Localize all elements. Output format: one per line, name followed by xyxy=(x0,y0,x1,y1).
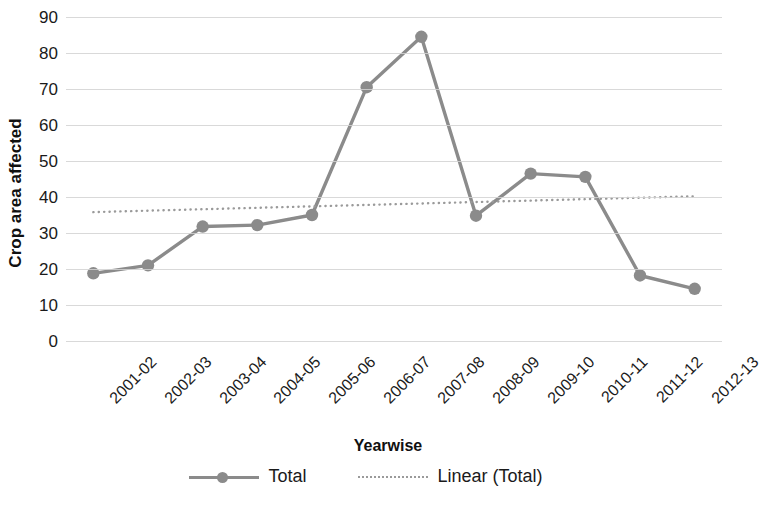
x-axis-tick-label: 2001-02 xyxy=(107,353,161,407)
x-axis-tick-label: 2002-03 xyxy=(161,353,215,407)
y-axis-tick-label: 20 xyxy=(14,261,58,278)
legend-label: Total xyxy=(268,466,306,487)
y-axis-tick-label: 50 xyxy=(14,153,58,170)
gridlines xyxy=(66,17,722,341)
x-axis-tick-label: 2007-08 xyxy=(435,353,489,407)
y-axis-tick-label: 70 xyxy=(14,81,58,98)
y-axis-tick-label: 30 xyxy=(14,225,58,242)
gridline xyxy=(66,17,722,18)
y-axis-tick-label: 40 xyxy=(14,189,58,206)
gridline xyxy=(66,233,722,234)
x-axis-tick-label: 2010-11 xyxy=(598,353,651,406)
legend-label: Linear (Total) xyxy=(437,466,542,487)
y-axis-tick-label: 90 xyxy=(14,9,58,26)
legend-swatch-line-marker-icon xyxy=(189,470,259,484)
gridline xyxy=(66,161,722,162)
legend-item[interactable]: Linear (Total) xyxy=(358,466,542,487)
gridline xyxy=(66,197,722,198)
x-axis-tick-label: 2012-13 xyxy=(708,353,762,407)
legend-item[interactable]: Total xyxy=(189,466,306,487)
y-axis-tick-label: 80 xyxy=(14,45,58,62)
x-axis-tick-label: 2009-10 xyxy=(544,353,598,407)
gridline xyxy=(66,269,722,270)
chart-legend: TotalLinear (Total) xyxy=(0,466,732,487)
gridline xyxy=(66,305,722,306)
gridline xyxy=(66,125,722,126)
x-axis-tick-label: 2006-07 xyxy=(380,353,434,407)
x-axis-tick-labels: 2001-022002-032003-042004-052005-062006-… xyxy=(66,341,722,441)
y-axis-tick-label: 60 xyxy=(14,117,58,134)
gridline xyxy=(66,53,722,54)
plot-area xyxy=(66,17,722,341)
x-axis-tick-label: 2005-06 xyxy=(325,353,379,407)
y-axis-tick-label: 10 xyxy=(14,297,58,314)
y-axis-tick-label: 0 xyxy=(14,333,58,350)
x-axis-tick-label: 2003-04 xyxy=(216,353,270,407)
gridline xyxy=(66,89,722,90)
x-axis-title: Yearwise xyxy=(288,437,488,455)
x-axis-tick-label: 2004-05 xyxy=(271,353,325,407)
x-axis-tick-label: 2011-12 xyxy=(653,353,706,406)
x-axis-tick-label: 2008-09 xyxy=(489,353,543,407)
legend-swatch-dotted-line-icon xyxy=(358,470,428,484)
y-axis-tick-labels: 0102030405060708090 xyxy=(8,17,58,341)
